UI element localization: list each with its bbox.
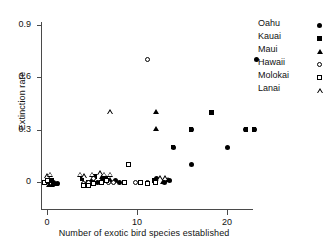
open-triangle-icon bbox=[317, 88, 323, 93]
legend-item-molokai[interactable]: Molokai bbox=[258, 68, 334, 81]
x-tick-label: 10 bbox=[125, 217, 149, 227]
open-square-icon bbox=[138, 180, 143, 185]
open-triangle-icon bbox=[162, 175, 168, 180]
x-tick-label: 20 bbox=[215, 217, 239, 227]
legend-item-lanai[interactable]: Lanai bbox=[258, 81, 334, 94]
filled-square-icon bbox=[252, 127, 257, 132]
filled-triangle-icon bbox=[53, 181, 59, 186]
legend-symbol bbox=[310, 16, 324, 29]
open-square-icon bbox=[145, 181, 150, 186]
x-tick-mark bbox=[47, 210, 48, 215]
open-square-icon bbox=[317, 75, 322, 80]
open-circle-icon bbox=[111, 180, 116, 185]
filled-triangle-icon bbox=[153, 126, 159, 131]
filled-circle-icon bbox=[189, 162, 194, 167]
filled-triangle-icon bbox=[317, 49, 323, 54]
open-square-icon bbox=[153, 180, 158, 185]
legend-symbol bbox=[310, 81, 324, 94]
filled-square-icon bbox=[317, 36, 322, 41]
legend-symbol bbox=[310, 55, 324, 68]
open-triangle-icon bbox=[107, 172, 113, 177]
y-tick-label: 0.9 bbox=[5, 19, 31, 29]
open-triangle-icon bbox=[47, 172, 53, 177]
scatter-plot-figure: 00.30.60.9 01020 Extinction rate Number … bbox=[0, 0, 334, 248]
x-axis-label: Number of exotic bird species establishe… bbox=[38, 228, 250, 238]
filled-circle-icon bbox=[317, 23, 322, 28]
legend-symbol bbox=[310, 68, 324, 81]
legend-item-label: Maui bbox=[258, 44, 310, 54]
open-triangle-icon bbox=[81, 173, 87, 178]
legend-item-label: Oahu bbox=[258, 18, 310, 28]
open-square-icon bbox=[45, 178, 50, 183]
open-circle-icon bbox=[133, 180, 138, 185]
legend-item-label: Hawaii bbox=[258, 57, 310, 67]
y-axis-label: Extinction rate bbox=[17, 51, 27, 151]
open-square-icon bbox=[91, 181, 96, 186]
legend-item-label: Kauai bbox=[258, 31, 310, 41]
legend-item-kauai[interactable]: Kauai bbox=[258, 29, 334, 42]
open-square-icon bbox=[126, 162, 131, 167]
open-square-icon bbox=[86, 183, 91, 188]
filled-circle-icon bbox=[225, 145, 230, 150]
legend-symbol bbox=[310, 42, 324, 55]
legend-item-maui[interactable]: Maui bbox=[258, 42, 334, 55]
y-tick-mark bbox=[37, 182, 41, 183]
legend: OahuKauaiMauiHawaiiMolokaiLanai bbox=[258, 16, 334, 94]
filled-triangle-icon bbox=[153, 109, 159, 114]
open-circle-icon bbox=[317, 62, 322, 67]
filled-square-icon bbox=[171, 145, 176, 150]
filled-square-icon bbox=[209, 110, 214, 115]
open-square-icon bbox=[99, 180, 104, 185]
open-triangle-icon bbox=[107, 109, 113, 114]
legend-item-oahu[interactable]: Oahu bbox=[258, 16, 334, 29]
x-tick-mark bbox=[137, 210, 138, 215]
x-tick-mark bbox=[227, 210, 228, 215]
legend-item-hawaii[interactable]: Hawaii bbox=[258, 55, 334, 68]
open-square-icon bbox=[81, 183, 86, 188]
y-tick-mark bbox=[37, 77, 41, 78]
y-tick-mark bbox=[37, 25, 41, 26]
x-axis-line bbox=[41, 209, 253, 210]
y-tick-mark bbox=[37, 130, 41, 131]
legend-symbol bbox=[310, 29, 324, 42]
filled-square-icon bbox=[244, 127, 249, 132]
x-tick-label: 0 bbox=[35, 217, 59, 227]
open-triangle-icon bbox=[89, 172, 95, 177]
y-tick-label: 0 bbox=[5, 176, 31, 186]
open-circle-icon bbox=[145, 57, 150, 62]
open-square-icon bbox=[104, 178, 109, 183]
open-square-icon bbox=[122, 180, 127, 185]
legend-item-label: Lanai bbox=[258, 83, 310, 93]
filled-square-icon bbox=[189, 127, 194, 132]
legend-item-label: Molokai bbox=[258, 70, 310, 80]
